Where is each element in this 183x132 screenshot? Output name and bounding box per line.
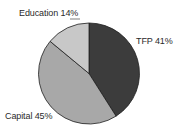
tfp-slice-label: TFP 41% — [136, 36, 173, 46]
capital-slice-label: Capital 45% — [5, 111, 52, 121]
education-slice-label: Education 14% — [19, 8, 78, 18]
pie-slices — [38, 23, 139, 124]
